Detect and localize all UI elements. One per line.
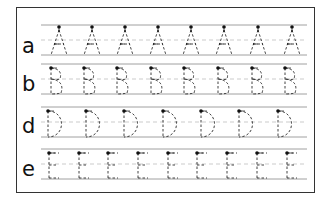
trace-stroke — [151, 79, 162, 94]
trace-stroke — [51, 30, 59, 55]
trace-stroke — [184, 79, 195, 94]
start-dot-icon — [156, 25, 160, 29]
trace-stroke — [218, 68, 228, 80]
trace-stroke — [117, 30, 125, 55]
trace-stroke — [284, 30, 292, 55]
trace-stroke — [51, 68, 61, 80]
trace-stroke — [150, 30, 158, 55]
start-dot-icon — [90, 25, 94, 29]
trace-stroke — [183, 30, 191, 55]
trace-stroke — [239, 111, 253, 137]
trace-stroke — [117, 68, 127, 80]
trace-stroke — [278, 111, 292, 137]
trace-stroke — [216, 30, 224, 55]
trace-stroke — [59, 30, 67, 55]
trace-stroke — [125, 30, 133, 55]
trace-stroke — [86, 111, 100, 137]
trace-stroke — [48, 111, 62, 137]
trace-stroke — [117, 79, 128, 94]
trace-stroke — [158, 30, 166, 55]
trace-stroke — [252, 79, 263, 94]
trace-stroke — [92, 30, 100, 55]
trace-stroke — [292, 30, 300, 55]
trace-stroke — [258, 30, 266, 55]
trace-stroke — [201, 111, 215, 137]
trace-stroke — [218, 79, 229, 94]
start-dot-icon — [123, 25, 127, 29]
start-dot-icon — [256, 25, 260, 29]
trace-stroke — [84, 30, 92, 55]
trace-stroke — [191, 30, 199, 55]
trace-stroke — [250, 30, 258, 55]
trace-stroke — [285, 79, 296, 94]
start-dot-icon — [222, 25, 226, 29]
trace-stroke — [184, 68, 194, 80]
trace-stroke — [285, 68, 295, 80]
trace-stroke — [163, 111, 177, 137]
tracing-guides — [17, 8, 316, 194]
trace-stroke — [151, 68, 161, 80]
start-dot-icon — [57, 25, 61, 29]
start-dot-icon — [189, 25, 193, 29]
trace-stroke — [252, 68, 262, 80]
trace-stroke — [51, 79, 62, 94]
start-dot-icon — [290, 25, 294, 29]
trace-stroke — [224, 30, 232, 55]
worksheet-frame: a b d e — [16, 7, 315, 193]
trace-stroke — [124, 111, 138, 137]
trace-stroke — [84, 79, 95, 94]
trace-stroke — [84, 68, 94, 80]
